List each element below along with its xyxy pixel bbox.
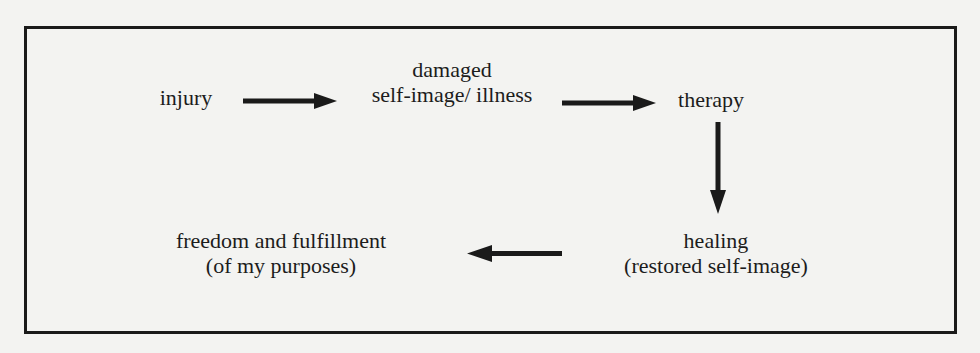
node-injury: injury [160, 85, 213, 110]
node-damaged-self-image: damaged self-image/ illness [372, 57, 533, 107]
node-freedom-fulfillment: freedom and fulfillment (of my purposes) [176, 228, 386, 278]
node-healing-line-2: (restored self-image) [624, 253, 808, 278]
node-therapy-label: therapy [678, 87, 744, 112]
node-damaged-line-2: self-image/ illness [372, 82, 533, 107]
node-damaged-line-1: damaged [372, 57, 533, 82]
node-freedom-line-1: freedom and fulfillment [176, 228, 386, 253]
node-therapy: therapy [678, 87, 744, 112]
node-injury-label: injury [160, 85, 213, 110]
node-healing-line-1: healing [624, 228, 808, 253]
node-healing: healing (restored self-image) [624, 228, 808, 278]
node-freedom-line-2: (of my purposes) [176, 253, 386, 278]
